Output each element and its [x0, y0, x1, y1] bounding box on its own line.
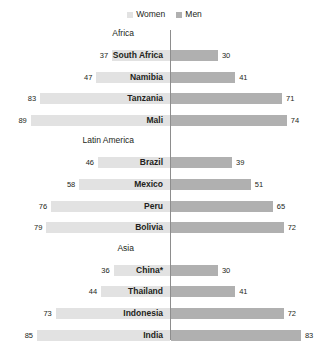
chart-row: Mali8974	[0, 114, 329, 128]
row-label: Bolivia	[135, 222, 166, 233]
value-men: 72	[288, 308, 296, 319]
value-women: 79	[34, 222, 42, 233]
row-label: Indonesia	[123, 308, 166, 319]
square-swatch-icon	[176, 12, 182, 18]
row-label: Peru	[144, 201, 166, 212]
legend-label: Women	[136, 10, 165, 19]
group-header-latin-america: Latin America	[0, 135, 166, 145]
bar-men[interactable]	[171, 179, 251, 190]
row-label: Mexico	[134, 179, 166, 190]
value-women: 36	[101, 265, 109, 276]
chart-row: Bolivia7972	[0, 221, 329, 235]
bar-men[interactable]	[171, 201, 273, 212]
value-men: 51	[255, 179, 263, 190]
chart-row: Mexico5851	[0, 178, 329, 192]
chart-row: China*3630	[0, 264, 329, 278]
square-swatch-icon	[127, 12, 133, 18]
value-women: 37	[100, 50, 108, 61]
butterfly-chart: WomenMen AfricaSouth Africa3730Namibia47…	[0, 0, 329, 348]
group-header-africa: Africa	[0, 28, 166, 38]
bar-men[interactable]	[171, 50, 218, 61]
bar-men[interactable]	[171, 93, 282, 104]
value-women: 85	[25, 330, 33, 341]
row-label: India	[143, 330, 166, 341]
row-label: Namibia	[130, 72, 166, 83]
value-women: 46	[86, 157, 94, 168]
bar-men[interactable]	[171, 72, 235, 83]
chart-row: Tanzania8371	[0, 92, 329, 106]
plot-area: AfricaSouth Africa3730Namibia4741Tanzani…	[0, 28, 329, 348]
bar-men[interactable]	[171, 330, 301, 341]
value-women: 58	[67, 179, 75, 190]
group-header-asia: Asia	[0, 243, 166, 253]
row-label: Brazil	[140, 157, 166, 168]
value-women: 76	[39, 201, 47, 212]
bar-men[interactable]	[171, 308, 284, 319]
bar-men[interactable]	[171, 286, 235, 297]
row-label: Thailand	[128, 286, 166, 297]
chart-row: India8583	[0, 329, 329, 343]
bar-men[interactable]	[171, 157, 232, 168]
value-men: 41	[239, 72, 247, 83]
chart-row: South Africa3730	[0, 49, 329, 63]
chart-row: Peru7665	[0, 200, 329, 214]
value-men: 65	[277, 201, 285, 212]
legend-item-women[interactable]: Women	[127, 10, 165, 19]
value-men: 30	[222, 50, 230, 61]
value-women: 47	[84, 72, 92, 83]
value-men: 83	[305, 330, 313, 341]
value-men: 71	[286, 93, 294, 104]
value-women: 73	[43, 308, 51, 319]
value-men: 30	[222, 265, 230, 276]
row-label: China*	[136, 265, 166, 276]
chart-row: Brazil4639	[0, 156, 329, 170]
chart-row: Namibia4741	[0, 71, 329, 85]
chart-row: Thailand4441	[0, 285, 329, 299]
value-men: 72	[288, 222, 296, 233]
value-women: 83	[28, 93, 36, 104]
legend-label: Men	[185, 10, 202, 19]
value-men: 41	[239, 286, 247, 297]
bar-men[interactable]	[171, 265, 218, 276]
row-label: Tanzania	[127, 93, 166, 104]
bar-men[interactable]	[171, 115, 287, 126]
row-label: Mali	[146, 115, 166, 126]
value-men: 74	[291, 115, 299, 126]
chart-legend: WomenMen	[0, 10, 329, 19]
legend-item-men[interactable]: Men	[176, 10, 202, 19]
bar-men[interactable]	[171, 222, 284, 233]
chart-row: Indonesia7372	[0, 307, 329, 321]
value-men: 39	[236, 157, 244, 168]
value-women: 44	[89, 286, 97, 297]
row-label: South Africa	[113, 50, 166, 61]
value-women: 89	[18, 115, 26, 126]
